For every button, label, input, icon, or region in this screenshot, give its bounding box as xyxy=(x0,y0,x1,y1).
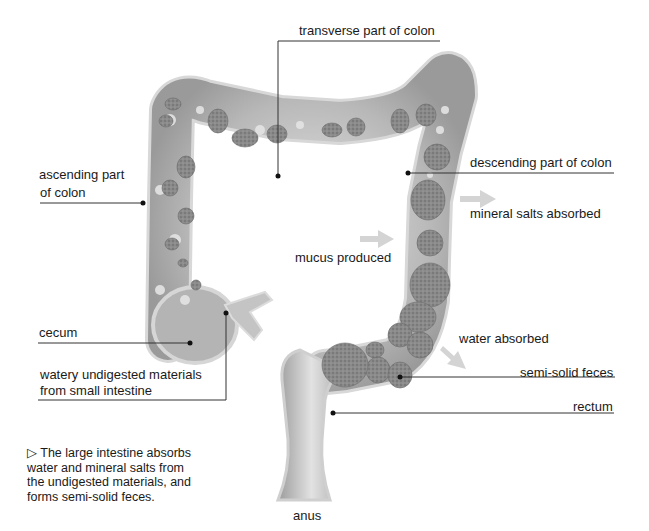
caption-line1: The large intestine absorbs xyxy=(40,446,191,460)
label-mucus: mucus produced xyxy=(295,250,391,265)
caption: ▷ The large intestine absorbs water and … xyxy=(27,446,191,504)
label-watery-line2: from small intestine xyxy=(40,383,152,398)
label-mineral-salts: mineral salts absorbed xyxy=(470,206,601,221)
caption-line3: the undigested materials, and xyxy=(27,475,191,490)
caption-marker-icon: ▷ xyxy=(27,446,37,460)
label-descending-colon: descending part of colon xyxy=(470,155,612,170)
label-cecum: cecum xyxy=(39,325,77,340)
caption-line2: water and mineral salts from xyxy=(27,461,191,476)
caption-line4: forms semi-solid feces. xyxy=(27,490,191,505)
label-ascending-colon-line1: ascending part xyxy=(39,167,124,182)
label-anus: anus xyxy=(293,508,321,523)
label-watery-line1: watery undigested materials xyxy=(40,367,202,382)
label-water-absorbed: water absorbed xyxy=(459,331,549,346)
label-transverse-colon: transverse part of colon xyxy=(299,23,435,38)
label-ascending-colon-line2: of colon xyxy=(40,185,86,200)
label-rectum: rectum xyxy=(573,399,613,414)
label-semi-solid-feces: semi-solid feces xyxy=(520,365,613,380)
